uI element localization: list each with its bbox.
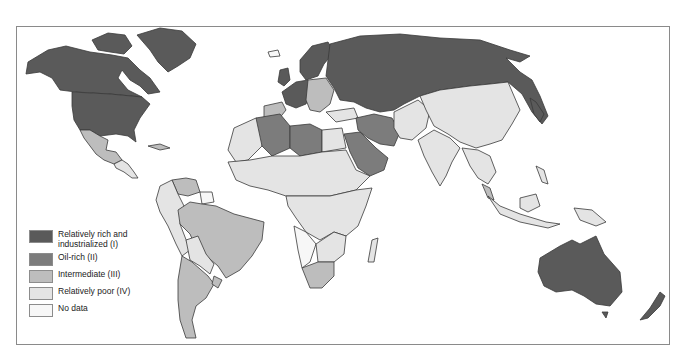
region-uruguay bbox=[212, 276, 222, 288]
legend-item-intermediate: Intermediate (III) bbox=[29, 270, 159, 283]
region-caribbean bbox=[148, 144, 170, 150]
legend-item-oil-rich: Oil-rich (II) bbox=[29, 253, 159, 266]
region-madagascar bbox=[368, 238, 378, 262]
region-greenland bbox=[137, 28, 196, 72]
region-central-america bbox=[114, 160, 138, 178]
region-guianas bbox=[200, 192, 214, 204]
region-malaysia bbox=[482, 184, 494, 200]
region-southeast-asia bbox=[462, 148, 496, 184]
region-australia bbox=[538, 236, 622, 306]
legend-swatch-no-data bbox=[29, 304, 53, 317]
region-eastern-europe bbox=[306, 78, 334, 112]
region-canada-alaska bbox=[26, 46, 160, 97]
legend-item-relatively-poor: Relatively poor (IV) bbox=[29, 287, 159, 300]
region-new-zealand bbox=[640, 292, 665, 320]
region-libya bbox=[290, 124, 322, 156]
region-turkey bbox=[326, 108, 358, 122]
region-uk bbox=[278, 68, 290, 86]
legend-swatch-relatively-poor bbox=[29, 287, 53, 300]
legend-label-intermediate: Intermediate (III) bbox=[58, 270, 120, 280]
legend-label-no-data: No data bbox=[58, 304, 88, 314]
region-philippines bbox=[536, 166, 548, 184]
legend-swatch-intermediate bbox=[29, 270, 53, 283]
region-tasmania bbox=[602, 312, 608, 318]
region-new-guinea bbox=[574, 208, 606, 226]
legend-label-relatively-poor: Relatively poor (IV) bbox=[58, 287, 130, 297]
legend-label-rich: Relatively rich and industrialized (I) bbox=[58, 230, 127, 249]
region-egypt bbox=[322, 128, 346, 152]
legend-item-rich-industrialized: Relatively rich and industrialized (I) bbox=[29, 230, 159, 249]
region-iceland bbox=[268, 50, 280, 57]
region-borneo bbox=[520, 194, 540, 212]
region-arctic-islands bbox=[92, 33, 132, 54]
legend-label-rich-line2: industrialized (I) bbox=[58, 239, 118, 249]
region-algeria bbox=[256, 114, 290, 156]
legend-swatch-rich bbox=[29, 230, 53, 243]
region-south-africa bbox=[302, 262, 334, 288]
region-india bbox=[418, 130, 460, 186]
legend-label-oil-rich: Oil-rich (II) bbox=[58, 253, 98, 263]
legend-label-rich-line1: Relatively rich and bbox=[58, 229, 127, 239]
legend-item-no-data: No data bbox=[29, 304, 159, 317]
legend-swatch-oil-rich bbox=[29, 253, 53, 266]
legend: Relatively rich and industrialized (I) O… bbox=[29, 230, 159, 321]
